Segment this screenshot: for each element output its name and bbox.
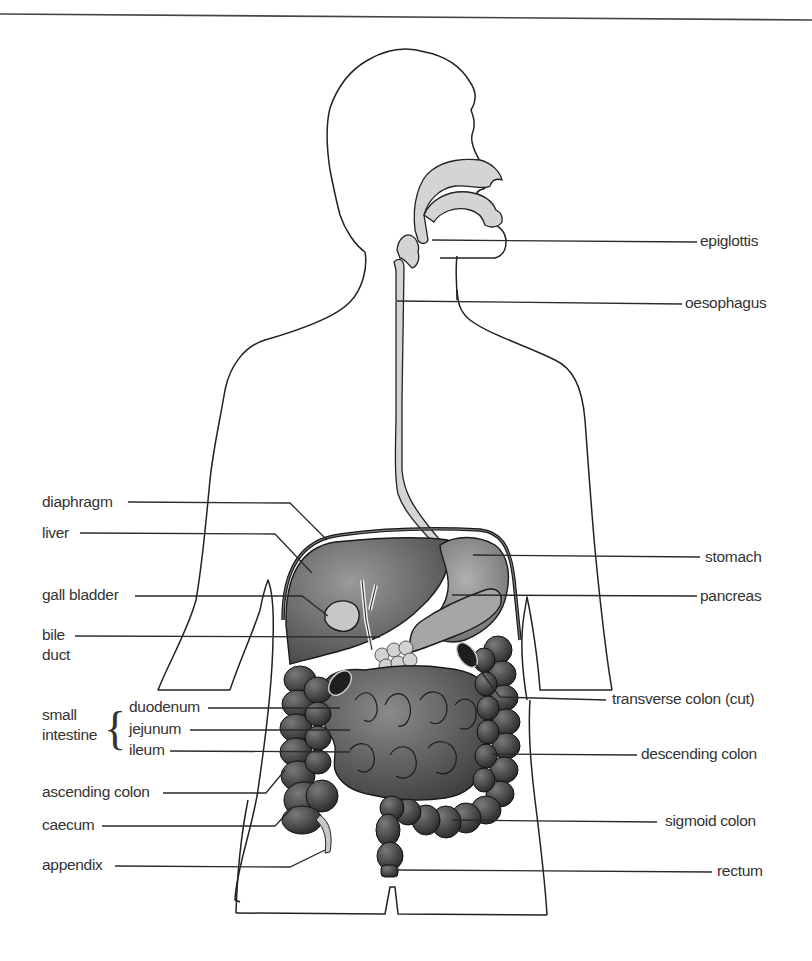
label-transverse-colon: transverse colon (cut) [612, 690, 755, 707]
gall-bladder [325, 601, 359, 631]
label-bile-duct-2: duct [42, 646, 71, 663]
label-caecum: caecum [42, 816, 94, 833]
label-ascending-colon: ascending colon [42, 783, 150, 800]
label-pancreas: pancreas [700, 587, 762, 604]
label-jejunum: jejunum [128, 720, 181, 737]
label-stomach: stomach [705, 548, 761, 565]
label-diaphragm: diaphragm [42, 493, 113, 510]
label-appendix: appendix [42, 856, 103, 873]
labels-left: diaphragm liver gall bladder bile duct s… [42, 493, 200, 873]
label-bile-duct-1: bile [42, 626, 65, 643]
label-liver: liver [42, 524, 69, 541]
label-gall-bladder: gall bladder [42, 586, 119, 603]
label-duodenum: duodenum [129, 698, 200, 715]
small-intestine-brace: { [104, 703, 126, 754]
oesophagus-tube [394, 260, 440, 544]
top-rule [0, 14, 812, 20]
oral-cavity [394, 159, 502, 544]
label-epiglottis: epiglottis [700, 232, 759, 249]
appendix [316, 815, 331, 853]
label-ileum: ileum [129, 741, 165, 758]
label-small-intestine-2: intestine [42, 726, 97, 743]
organs [280, 529, 520, 877]
digestive-system-diagram: epiglottis oesophagus stomach pancreas t… [0, 0, 812, 961]
label-sigmoid-colon: sigmoid colon [665, 812, 756, 829]
labels-right: epiglottis oesophagus stomach pancreas t… [612, 232, 767, 879]
label-small-intestine-1: small [42, 706, 77, 723]
rectum [376, 814, 403, 877]
label-oesophagus: oesophagus [685, 294, 767, 311]
label-rectum: rectum [717, 862, 763, 879]
label-descending-colon: descending colon [641, 745, 757, 762]
